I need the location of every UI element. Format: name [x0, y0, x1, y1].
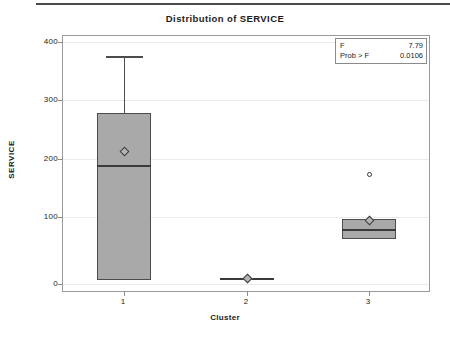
- y-tick-label-200: 200: [12, 154, 58, 163]
- gridline-0: [63, 284, 429, 285]
- y-tick-label-0: 0: [12, 279, 58, 288]
- x-tick-3: [369, 291, 370, 296]
- median-line-cluster-1: [97, 165, 151, 167]
- x-tick-label-3: 3: [348, 297, 388, 306]
- gridline-300: [63, 100, 429, 101]
- stats-f-value: 7.79: [408, 41, 423, 51]
- x-tick-2: [247, 291, 248, 296]
- page-title: Distribution of SERVICE: [0, 13, 450, 24]
- y-tick-100: [58, 217, 63, 218]
- x-tick-label-2: 2: [226, 297, 266, 306]
- y-tick-label-300: 300: [12, 95, 58, 104]
- whisker-upper-cluster-1: [124, 56, 125, 113]
- y-tick-200: [58, 159, 63, 160]
- x-axis-title: Cluster: [0, 313, 450, 322]
- figure: Distribution of SERVICE SERVICE 400 300 …: [0, 0, 450, 343]
- mean-marker-cluster-2: [243, 274, 253, 284]
- median-line-cluster-3: [342, 229, 396, 231]
- stats-prob-label: Prob > F: [340, 51, 369, 61]
- y-tick-300: [58, 100, 63, 101]
- stats-row-f: F 7.79: [340, 41, 423, 51]
- header-rule: [36, 3, 450, 5]
- y-tick-label-400: 400: [12, 37, 58, 46]
- whisker-cap-upper-cluster-1: [106, 56, 143, 58]
- y-tick-400: [58, 42, 63, 43]
- y-tick-0: [58, 284, 63, 285]
- plot-area: F 7.79 Prob > F 0.0106: [62, 35, 430, 292]
- box-cluster-1: [97, 113, 151, 280]
- outlier-marker-cluster-3: [367, 172, 372, 177]
- stats-f-label: F: [340, 41, 345, 51]
- x-tick-label-1: 1: [103, 297, 143, 306]
- stats-annotation-box: F 7.79 Prob > F 0.0106: [335, 38, 427, 64]
- stats-prob-value: 0.0106: [400, 51, 423, 61]
- y-tick-label-100: 100: [12, 212, 58, 221]
- x-tick-1: [124, 291, 125, 296]
- stats-row-prob: Prob > F 0.0106: [340, 51, 423, 61]
